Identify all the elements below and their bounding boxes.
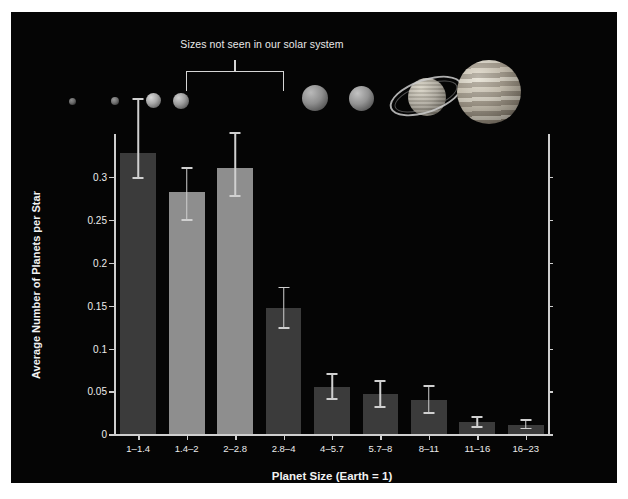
x-tick — [235, 435, 236, 440]
error-bar — [181, 167, 193, 220]
x-tick — [526, 435, 527, 440]
error-bar — [520, 419, 532, 429]
jupiter-planet-icon — [457, 60, 521, 124]
x-tick-label: 2.8–4 — [272, 443, 296, 454]
x-tick — [138, 435, 139, 440]
bar — [169, 192, 205, 434]
plot-area: 00.050.10.150.20.250.3 1–1.41.4–22–2.82.… — [114, 134, 550, 436]
annotation-text: Sizes not seen in our solar system — [180, 38, 343, 50]
y-tick-label: 0.15 — [88, 300, 107, 311]
error-bar — [132, 98, 144, 179]
y-tick — [109, 263, 114, 264]
x-tick-label: 8–11 — [419, 443, 439, 454]
mercury-planet-icon — [69, 98, 76, 105]
error-bar — [471, 416, 483, 427]
y-tick — [109, 220, 114, 221]
y-tick — [109, 434, 114, 435]
bar — [120, 153, 156, 435]
y-tick-right — [548, 349, 553, 350]
x-axis-label: Planet Size (Earth = 1) — [114, 470, 550, 482]
x-tick-label: 4–5.7 — [320, 443, 344, 454]
figure: Sizes not seen in our solar system 00.05… — [0, 0, 628, 499]
y-tick — [109, 391, 114, 392]
error-bar — [326, 373, 338, 400]
y-tick-label: 0 — [101, 429, 107, 440]
x-tick-label: 5.7–8 — [369, 443, 393, 454]
y-tick-right — [548, 306, 553, 307]
y-tick-label: 0.05 — [88, 386, 107, 397]
x-tick-label: 11–16 — [464, 443, 490, 454]
y-tick-label: 0.2 — [93, 257, 107, 268]
y-tick-label: 0.25 — [88, 214, 107, 225]
x-tick — [380, 435, 381, 440]
chart-canvas: Sizes not seen in our solar system 00.05… — [11, 12, 617, 483]
y-tick-right — [548, 263, 553, 264]
error-bar — [229, 132, 241, 196]
venus-planet-icon — [146, 93, 161, 108]
error-bar — [423, 385, 435, 413]
x-tick — [429, 435, 430, 440]
y-tick — [109, 349, 114, 350]
uranus-planet-icon — [302, 85, 328, 111]
y-tick — [109, 306, 114, 307]
solar-system-planet-strip — [11, 12, 617, 132]
y-tick-label: 0.3 — [93, 171, 107, 182]
x-tick — [477, 435, 478, 440]
annotation-label: Sizes not seen in our solar system — [11, 38, 617, 50]
y-tick-right — [548, 177, 553, 178]
mars-planet-icon — [111, 97, 119, 105]
earth-planet-icon — [173, 93, 189, 109]
error-bar — [278, 287, 290, 329]
y-tick — [109, 177, 114, 178]
x-tick-label: 2–2.8 — [223, 443, 247, 454]
y-tick-right — [548, 220, 553, 221]
x-tick — [187, 435, 188, 440]
y-axis-label: Average Number of Planets per Star — [30, 185, 42, 385]
x-tick — [332, 435, 333, 440]
x-tick-label: 16–23 — [513, 443, 539, 454]
y-tick-label: 0.1 — [93, 343, 107, 354]
x-tick-label: 1.4–2 — [175, 443, 199, 454]
bar — [217, 168, 253, 434]
x-tick-label: 1–1.4 — [126, 443, 150, 454]
saturn-planet-icon — [390, 63, 462, 129]
y-axis-spine — [114, 134, 116, 436]
annotation-bracket — [186, 71, 284, 91]
y-tick-right — [548, 434, 553, 435]
error-bar — [374, 380, 386, 407]
neptune-planet-icon — [349, 86, 374, 111]
y-tick-right — [548, 391, 553, 392]
x-tick — [284, 435, 285, 440]
